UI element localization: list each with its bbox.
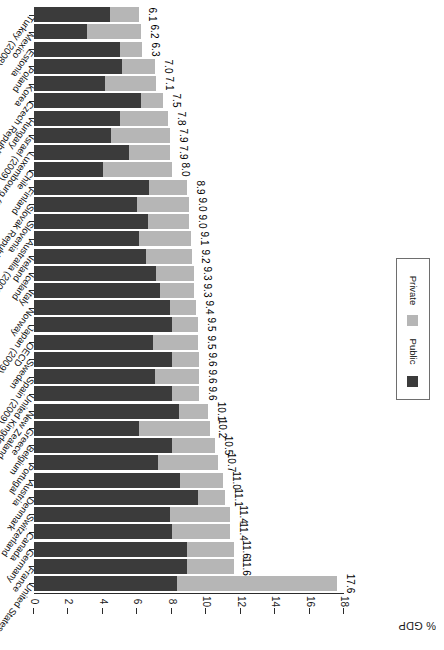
stacked-bar	[34, 231, 191, 246]
x-tick-label: 14	[270, 596, 281, 607]
stacked-bar	[34, 76, 156, 91]
bar-value-label: 8.9	[187, 178, 213, 197]
bar-row: 17.6	[34, 576, 344, 593]
bar-value-label: 9.4	[196, 298, 222, 317]
bar-segment-public	[34, 404, 179, 419]
bar-row: 11.0	[34, 472, 344, 489]
bar-segment-private	[170, 507, 230, 522]
bar-segment-public	[34, 576, 177, 591]
bar-segment-public	[34, 249, 146, 264]
bar-value-label: 9.5	[198, 333, 224, 352]
bar-segment-private	[172, 524, 231, 539]
x-tick-label: 16	[304, 596, 315, 607]
stacked-bar	[34, 421, 210, 436]
x-tick	[33, 608, 34, 614]
bar-segment-public	[34, 76, 105, 91]
x-tick	[309, 608, 310, 614]
stacked-bar	[34, 542, 234, 557]
bar-row: 11.6	[34, 541, 344, 558]
bar-value-label: 9.6	[199, 384, 225, 403]
x-tick-label: 2	[63, 599, 74, 605]
bar-segment-public	[34, 438, 172, 453]
bar-row: 9.0	[34, 197, 344, 214]
legend-swatch-public	[408, 376, 419, 387]
bar-segment-private	[122, 59, 155, 74]
bar-segment-public	[34, 128, 112, 143]
bar-row: 8.0	[34, 162, 344, 179]
bar-value-label: 11.4	[230, 522, 256, 541]
bar-segment-private	[129, 145, 170, 160]
stacked-bar	[34, 162, 172, 177]
legend-label-public: Public	[408, 339, 419, 365]
stacked-bar	[34, 369, 199, 384]
stacked-bar	[34, 576, 337, 591]
bar-segment-public	[34, 231, 139, 246]
x-tick	[240, 608, 241, 614]
stacked-bar	[34, 524, 230, 539]
x-tick-label: 10	[201, 596, 212, 607]
stacked-bar	[34, 197, 189, 212]
x-tick-label: 18	[339, 596, 350, 607]
stacked-bar	[34, 507, 230, 522]
bar-value-label: 11.4	[230, 505, 256, 524]
bar-segment-private	[180, 473, 223, 488]
bar-value-label: 10.5	[215, 436, 241, 455]
bar-row: 8.9	[34, 179, 344, 196]
bar-value-label: 9.6	[199, 350, 225, 369]
bar-row: 9.3	[34, 283, 344, 300]
bar-row: 6.3	[34, 41, 344, 58]
x-tick	[67, 608, 68, 614]
bar-row: 6.1	[34, 7, 344, 24]
bar-segment-public	[34, 317, 172, 332]
bar-value-label: 9.3	[194, 281, 220, 300]
stacked-bar	[34, 559, 234, 574]
x-tick-label: 8	[166, 599, 177, 605]
x-tick	[171, 608, 172, 614]
bar-row: 11.6	[34, 559, 344, 576]
bar-segment-public	[34, 335, 153, 350]
bar-rows: 17.611.611.611.411.411.111.010.710.510.2…	[34, 7, 344, 593]
x-tick	[343, 608, 344, 614]
x-axis-title: % GDP	[398, 620, 436, 632]
bar-segment-public	[34, 59, 122, 74]
bar-row: 9.6	[34, 386, 344, 403]
bar-segment-public	[34, 42, 120, 57]
bar-row: 9.0	[34, 214, 344, 231]
bar-value-label: 9.2	[192, 247, 218, 266]
x-tick-label: 4	[97, 599, 108, 605]
bar-segment-private	[172, 386, 200, 401]
bar-row: 11.4	[34, 524, 344, 541]
bar-segment-private	[105, 76, 157, 91]
stacked-bar	[34, 93, 163, 108]
legend-item-private: Private	[402, 271, 424, 326]
bar-segment-private	[120, 42, 142, 57]
bar-segment-private	[139, 421, 210, 436]
bar-row: 9.1	[34, 231, 344, 248]
stacked-bar	[34, 111, 168, 126]
bar-value-label: 7.9	[170, 126, 196, 145]
bar-value-label: 6.2	[141, 22, 167, 41]
stacked-bar	[34, 214, 189, 229]
bar-row: 10.1	[34, 403, 344, 420]
bar-row: 9.4	[34, 300, 344, 317]
bar-row: 11.4	[34, 507, 344, 524]
bar-segment-public	[34, 283, 160, 298]
x-tick	[102, 608, 103, 614]
bar-segment-private	[158, 455, 218, 470]
bar-row: 9.5	[34, 317, 344, 334]
bar-segment-public	[34, 386, 172, 401]
stacked-bar	[34, 438, 215, 453]
stacked-bar	[34, 386, 199, 401]
chart-legend: Public Private	[396, 258, 430, 400]
bar-row: 10.2	[34, 421, 344, 438]
bar-row: 10.7	[34, 455, 344, 472]
bar-value-label: 9.0	[189, 195, 215, 214]
bar-segment-private	[148, 214, 189, 229]
bar-value-label: 10.2	[210, 419, 236, 438]
bar-value-label: 17.6	[337, 574, 363, 593]
bar-value-label: 9.6	[199, 367, 225, 386]
bar-value-label: 9.0	[189, 212, 215, 231]
x-tick-label: 12	[235, 596, 246, 607]
bar-segment-private	[141, 93, 163, 108]
bar-segment-private	[198, 490, 226, 505]
